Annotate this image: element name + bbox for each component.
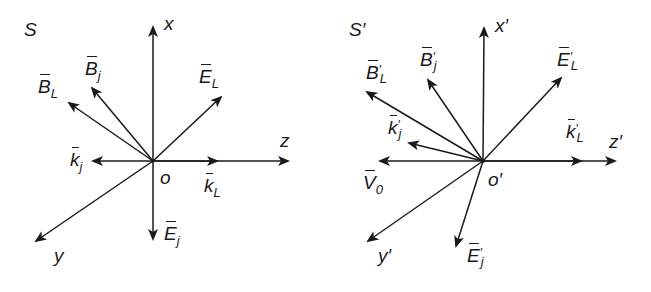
sp-k-j-label: k′j [388,118,401,140]
s-e-l-vector [153,97,221,161]
s-origin-label: o [160,168,171,187]
sp-x-axis-label: x′ [495,16,508,35]
sp-b-j-vector [428,80,483,161]
sp-b-j-label: B′j [420,50,437,72]
s-x-axis-label: x [164,14,174,33]
s-y-axis-label: y [54,246,64,265]
diagram-canvas: S x z y o Bj BL EL kj kL Ej S′ x′ z′ y′ … [0,0,651,292]
sp-v0-label: V0 [363,173,383,192]
frame-s-prime-label: S′ [349,20,365,39]
s-b-l-label: BL [38,77,58,96]
s-b-j-label: Bj [85,59,101,78]
sp-b-l-vector [367,92,483,161]
sp-y-axis [368,161,483,241]
s-k-l-label: kL [204,176,221,195]
vector-diagram-svg [0,0,651,292]
sp-e-l-vector [483,78,561,161]
sp-k-l-label: k′L [566,122,584,144]
sp-y-axis-label: y′ [378,246,391,265]
sp-e-l-label: E′L [557,50,578,72]
frame-s-label: S [24,20,37,39]
frame-s-arrows [36,27,288,241]
sp-x-axis [483,28,484,161]
sp-e-j-label: E′j [467,246,484,268]
sp-z-axis-label: z′ [609,132,622,151]
sp-e-j-vector [456,161,483,246]
s-y-axis [36,161,153,241]
sp-b-l-label: B′L [366,63,387,85]
s-e-l-label: EL [199,67,219,86]
sp-origin-label: o′ [488,170,502,189]
s-z-axis-label: z [280,131,290,150]
s-k-j-label: kj [70,150,82,169]
s-e-j-label: Ej [164,224,180,243]
